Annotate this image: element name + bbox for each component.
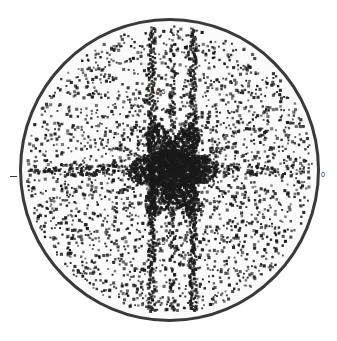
y-axis-tick-label-negative: -0.5 <box>154 239 165 246</box>
y-axis-tick-label-positive: 0.5 <box>156 88 165 95</box>
scatter-figure: 0.5 -0.5 -0.5 0 <box>0 0 337 341</box>
scatter-points-layer <box>22 21 317 319</box>
plot-disc-boundary <box>19 18 320 322</box>
x-axis-tick-mark-left <box>10 176 17 177</box>
x-axis-tick-label-negative: -0.5 <box>85 171 96 178</box>
plot-disc-wrapper <box>19 18 320 322</box>
x-axis-tick-label-right: 0 <box>321 171 325 178</box>
